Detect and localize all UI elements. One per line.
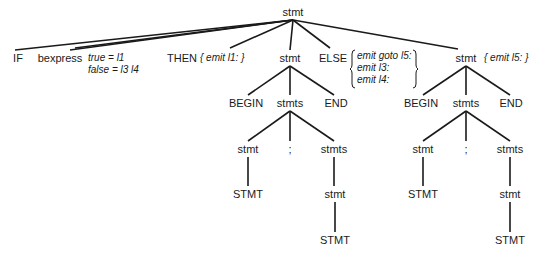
left-inner-stmt-node: stmt <box>238 143 259 155</box>
left-STMT-leaf: STMT <box>233 188 263 200</box>
right-nested-stmt-node: stmt <box>500 188 521 200</box>
right-end-node: END <box>499 97 522 109</box>
right-inner-stmts-node: stmts <box>497 143 523 155</box>
left-semicolon-node: ; <box>288 143 291 155</box>
right-STMT-leaf: STMT <box>408 188 438 200</box>
right-begin-node: BEGIN <box>404 97 438 109</box>
left-stmt-node: stmt <box>280 52 301 64</box>
right-stmt-action: { emit l5: } <box>484 52 528 64</box>
else-node: ELSE <box>319 52 347 64</box>
right-stmts-node: stmts <box>453 97 479 109</box>
then-action: { emit l1: } <box>200 52 244 64</box>
left-nested-STMT-leaf: STMT <box>320 234 350 246</box>
bexpress-node: bexpress <box>38 52 83 64</box>
right-stmt-node: stmt <box>456 52 477 64</box>
right-nested-STMT-leaf: STMT <box>495 234 525 246</box>
else-action-2: emit l3: <box>357 62 389 74</box>
left-inner-stmts-node: stmts <box>321 143 347 155</box>
if-node: IF <box>13 52 23 64</box>
bexpress-false-attr: false = l3 l4 <box>88 64 139 76</box>
tree-edges <box>0 0 547 259</box>
right-semicolon-node: ; <box>464 143 467 155</box>
left-stmts-node: stmts <box>277 97 303 109</box>
else-action-1: emit goto l5: <box>357 50 411 62</box>
left-end-node: END <box>324 97 347 109</box>
left-nested-stmt-node: stmt <box>325 188 346 200</box>
bexpress-true-attr: true = l1 <box>88 52 124 64</box>
left-begin-node: BEGIN <box>229 97 263 109</box>
then-node: THEN <box>167 52 197 64</box>
right-inner-stmt-node: stmt <box>413 143 434 155</box>
else-action-3: emit l4: <box>357 74 389 86</box>
root-stmt-node: stmt <box>283 6 304 18</box>
